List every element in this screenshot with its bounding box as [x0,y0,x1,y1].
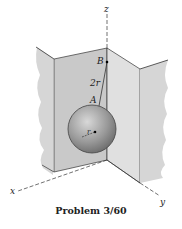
figure-caption: Problem 3/60 [0,205,182,216]
point-b-label: B [96,56,104,66]
z-axis-label: z [103,4,109,14]
cord-length-label: 2r [89,78,101,88]
point-b [106,61,109,64]
sphere [68,105,116,153]
x-axis-label: x [10,186,15,196]
diagram: z x y B A 2r r [0,0,182,229]
right-wall-edge [140,60,168,183]
y-axis [140,183,160,196]
point-a-label: A [89,95,97,105]
left-wall-edge [36,47,53,175]
